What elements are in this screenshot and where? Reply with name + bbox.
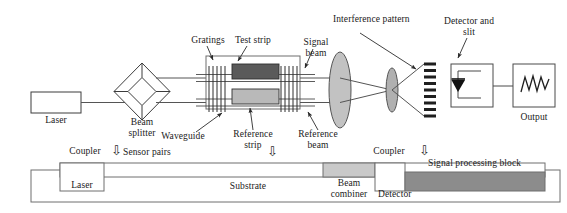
collimating-lens [329, 52, 351, 128]
beam-combiner-label-line1: Beam [319, 178, 379, 189]
beam-splitter-label-line1: Beam [117, 117, 167, 128]
coupler-left-label: Coupler [57, 146, 113, 157]
leader-interference-pattern [360, 33, 416, 69]
substrate-label: Substrate [213, 181, 283, 192]
coupler-right-label: Coupler [361, 146, 417, 157]
leader-reference-strip [250, 108, 253, 130]
laser-source-box [31, 92, 81, 113]
leader-reference-beam [308, 112, 318, 130]
reference-strip-label-line1: Reference [224, 129, 282, 140]
beam-splitter [114, 63, 170, 120]
detector-slit-label-line2: slit [430, 27, 508, 38]
substrate-detector-block [375, 163, 405, 191]
output-box [513, 64, 555, 107]
reference-strip-down-arrow-icon: ⇩ [267, 145, 278, 158]
coupler-right-down-arrow-icon: ⇩ [419, 144, 430, 157]
leader-waveguide [196, 113, 222, 132]
test-strip [232, 64, 279, 79]
substrate-detector-label: Detector [378, 189, 412, 200]
test-strip-label: Test strip [222, 35, 284, 46]
substrate-layout [31, 163, 560, 202]
detector-slit-label-line1: Detector and [430, 16, 508, 27]
reference-strip [232, 89, 279, 104]
beam-combiner-label-line2: combiner [319, 189, 379, 200]
reference-beam-label-line1: Reference [288, 129, 348, 140]
substrate-signal-processing-block [405, 172, 545, 191]
laser-label: Laser [31, 115, 81, 126]
signal-beam-label-line1: Signal [294, 37, 338, 48]
detector-box [451, 64, 493, 107]
interference-pattern-label: Interference pattern [333, 14, 410, 25]
coupler-left-down-arrow-icon: ⇩ [111, 144, 122, 157]
optical-biosensor-figure: Laser Beam splitter Gratings Test strip … [0, 0, 567, 213]
sensor-pairs-label: Sensor pairs [123, 147, 171, 158]
waveguide-label: Waveguide [154, 131, 212, 142]
reference-beam-label-line2: beam [288, 140, 348, 151]
signal-processing-block-label: Signal processing block [428, 158, 521, 169]
interference-fringes [424, 63, 436, 118]
output-label: Output [509, 112, 559, 123]
substrate-laser-label: Laser [60, 180, 104, 191]
substrate-beam-combiner [323, 163, 375, 177]
leader-detector-slit [458, 38, 467, 58]
signal-beam-label-line2: beam [294, 48, 338, 59]
